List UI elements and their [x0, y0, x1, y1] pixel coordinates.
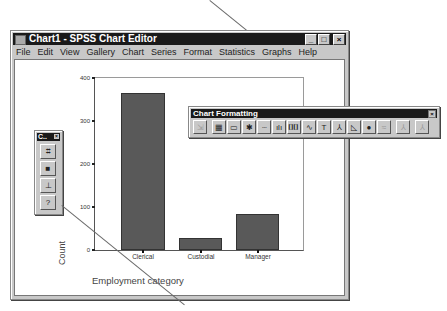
menu-edit[interactable]: Edit — [38, 46, 54, 58]
formatting-title: Chart Formatting — [193, 109, 258, 118]
y-axis-title[interactable]: Count — [57, 241, 67, 265]
y-tick — [92, 163, 95, 165]
fill-pattern-icon[interactable]: ▦ — [212, 120, 226, 134]
bar-custodial[interactable] — [179, 238, 222, 250]
help-icon[interactable]: ? — [40, 195, 56, 210]
menu-file[interactable]: File — [16, 46, 31, 58]
menu-graphs[interactable]: Graphs — [262, 46, 292, 58]
y-tick-label: 300 — [70, 118, 90, 124]
x-tick-label: Manager — [236, 253, 280, 260]
maximize-button[interactable]: □ — [318, 34, 330, 45]
swap-axes-icon[interactable]: ⇲ — [193, 120, 207, 134]
window-title: Chart1 - SPSS Chart Editor — [29, 33, 157, 44]
break-line-icon[interactable]: ≈ — [377, 120, 391, 134]
y-tick — [92, 120, 95, 122]
menu-view[interactable]: View — [60, 46, 79, 58]
marker-icon[interactable]: ✱ — [242, 120, 256, 134]
chart-formatting-toolbar: Chart Formatting× ⇲ ▦ ▭ ✱ ┄ ılı ⌷⌷ ∿ T ⅄… — [188, 106, 440, 138]
explode-slice-icon[interactable]: ● — [362, 120, 376, 134]
menu-bar: File Edit View Gallery Chart Series Form… — [13, 46, 346, 58]
window-titlebar[interactable]: Chart1 - SPSS Chart Editor _ □ × — [13, 33, 346, 45]
three-d-rotation-icon[interactable]: ⅄ — [332, 120, 346, 134]
menu-help[interactable]: Help — [298, 46, 317, 58]
palette-titlebar[interactable]: C..× — [37, 133, 60, 141]
bar-clerical[interactable] — [121, 93, 165, 250]
minimize-button[interactable]: _ — [305, 34, 317, 45]
y-tick — [92, 249, 95, 251]
formatting-close-button[interactable]: × — [428, 110, 436, 118]
formatting-buttons: ⇲ ▦ ▭ ✱ ┄ ılı ⌷⌷ ∿ T ⅄ ◺ ● ≈ ⅄ ⅄ — [193, 120, 430, 134]
bar-label-icon[interactable]: ⌷⌷ — [287, 120, 301, 134]
text-icon[interactable]: T — [317, 120, 331, 134]
y-tick — [92, 77, 95, 79]
y-tick-label: 400 — [70, 75, 90, 81]
x-tick-label: Custodial — [179, 253, 223, 260]
plot-area[interactable]: 0 100 200 300 400 Clerical Custodial Man… — [94, 77, 304, 251]
menu-statistics[interactable]: Statistics — [219, 46, 255, 58]
interpolation-line-icon[interactable]: ∿ — [302, 120, 316, 134]
y-tick — [92, 206, 95, 208]
x-axis-title[interactable]: Employment category — [92, 275, 184, 286]
spin-icon[interactable]: ⅄ — [396, 120, 410, 134]
bar-style-icon[interactable]: ılı — [272, 120, 286, 134]
y-tick-label: 200 — [70, 161, 90, 167]
formatting-titlebar[interactable]: Chart Formatting× — [191, 109, 437, 118]
menu-series[interactable]: Series — [151, 46, 177, 58]
palette-title: C.. — [38, 133, 47, 140]
bar-manager[interactable] — [236, 214, 279, 250]
color-icon[interactable]: ■ — [40, 161, 56, 176]
point-selection-icon[interactable]: ⌗ — [40, 144, 56, 159]
palette-close-button[interactable]: × — [54, 134, 59, 139]
reference-line-icon[interactable]: ⊥ — [40, 178, 56, 193]
interpolation-icon[interactable]: ┄ — [257, 120, 271, 134]
close-button[interactable]: × — [333, 34, 345, 45]
point-id-icon[interactable]: ⅄ — [415, 120, 429, 134]
menu-chart[interactable]: Chart — [122, 46, 144, 58]
y-tick-label: 100 — [70, 204, 90, 210]
chart-canvas[interactable]: 0 100 200 300 400 Clerical Custodial Man… — [14, 59, 345, 296]
swap-axis-icon[interactable]: ◺ — [347, 120, 361, 134]
menu-gallery[interactable]: Gallery — [86, 46, 115, 58]
y-tick-label: 0 — [70, 247, 90, 253]
line-style-icon[interactable]: ▭ — [227, 120, 241, 134]
menu-format[interactable]: Format — [183, 46, 212, 58]
chart-app-icon[interactable] — [15, 35, 26, 45]
chart-palette-toolbar: C..× ⌗ ■ ⊥ ? — [34, 130, 63, 215]
